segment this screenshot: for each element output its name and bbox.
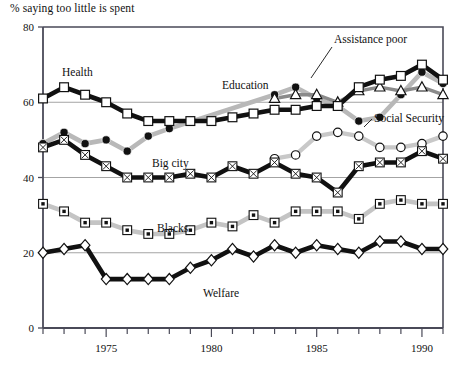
marker-dot <box>189 228 192 231</box>
marker-open-square <box>249 109 258 118</box>
marker-dot <box>41 202 44 205</box>
marker-dot <box>441 202 444 205</box>
marker-open-circle <box>312 132 320 140</box>
chart-figure: % saying too little is spent 02040608019… <box>0 0 458 365</box>
y-tick-label-60: 60 <box>23 96 35 108</box>
marker-open-square <box>291 105 300 114</box>
marker-dot <box>399 198 402 201</box>
marker-dot <box>231 225 234 228</box>
marker-dot <box>147 232 150 235</box>
marker-dot <box>83 221 86 224</box>
marker-open-square <box>165 117 174 126</box>
x-tick-label-1975: 1975 <box>95 342 118 354</box>
leader-line-assistance-poor <box>311 47 332 78</box>
marker-open-square <box>207 117 216 126</box>
marker-open-square <box>354 83 363 92</box>
series-label-education: Education <box>222 79 269 91</box>
series-label-social-security: Social Security <box>374 112 444 125</box>
y-tick-label-80: 80 <box>23 21 35 33</box>
marker-open-diamond <box>396 236 406 247</box>
marker-open-circle <box>397 143 405 151</box>
y-tick-label-0: 0 <box>29 322 35 334</box>
y-tick-label-20: 20 <box>23 247 35 259</box>
marker-open-circle <box>439 132 447 140</box>
y-tick-label-40: 40 <box>23 172 35 184</box>
marker-dot <box>315 210 318 213</box>
marker-open-square <box>418 60 427 69</box>
marker-open-square <box>312 102 321 111</box>
marker-open-square <box>102 98 111 107</box>
marker-dot <box>378 202 381 205</box>
marker-dot <box>210 221 213 224</box>
marker-open-circle <box>291 151 299 159</box>
x-tick-label-1980: 1980 <box>200 342 223 354</box>
marker-open-square <box>123 109 132 118</box>
marker-dot <box>294 210 297 213</box>
series-label-assistance-poor: Assistance poor <box>334 33 407 46</box>
chart-plot-area: 0204060801975198019851990HealthEducation… <box>0 0 458 365</box>
marker-dot <box>357 217 360 220</box>
marker-open-square <box>228 113 237 122</box>
marker-open-square <box>270 105 279 114</box>
marker-open-square <box>396 72 405 81</box>
marker-open-square <box>60 83 69 92</box>
marker-open-diamond <box>143 273 153 284</box>
marker-open-circle <box>355 132 363 140</box>
marker-open-square <box>333 102 342 111</box>
marker-open-square <box>39 94 48 103</box>
x-tick-label-1990: 1990 <box>411 342 434 354</box>
marker-dot <box>62 210 65 213</box>
series-label-big-city: Big city <box>152 157 189 170</box>
marker-open-diamond <box>122 273 132 284</box>
marker-open-diamond <box>291 247 301 258</box>
marker-filled-circle <box>144 132 152 140</box>
marker-open-square <box>81 90 90 99</box>
marker-open-circle <box>376 143 384 151</box>
marker-dot <box>126 228 129 231</box>
marker-open-square <box>186 117 195 126</box>
marker-filled-circle <box>81 140 89 148</box>
marker-open-circle <box>334 128 342 136</box>
marker-dot <box>273 221 276 224</box>
marker-open-square <box>375 75 384 84</box>
series-label-blacks: Blacks <box>157 222 189 234</box>
marker-filled-circle <box>102 136 110 144</box>
marker-filled-circle <box>355 117 363 125</box>
marker-dot <box>420 202 423 205</box>
series-label-health: Health <box>62 66 93 78</box>
marker-open-diamond <box>38 247 48 258</box>
series-label-welfare: Welfare <box>203 287 239 299</box>
marker-filled-circle <box>123 147 131 155</box>
marker-open-diamond <box>312 240 322 251</box>
marker-dot <box>104 221 107 224</box>
marker-dot <box>252 213 255 216</box>
marker-open-square <box>439 75 448 84</box>
series-line-welfare <box>43 241 443 279</box>
x-tick-label-1985: 1985 <box>306 342 329 354</box>
marker-open-square <box>144 117 153 126</box>
marker-dot <box>336 210 339 213</box>
